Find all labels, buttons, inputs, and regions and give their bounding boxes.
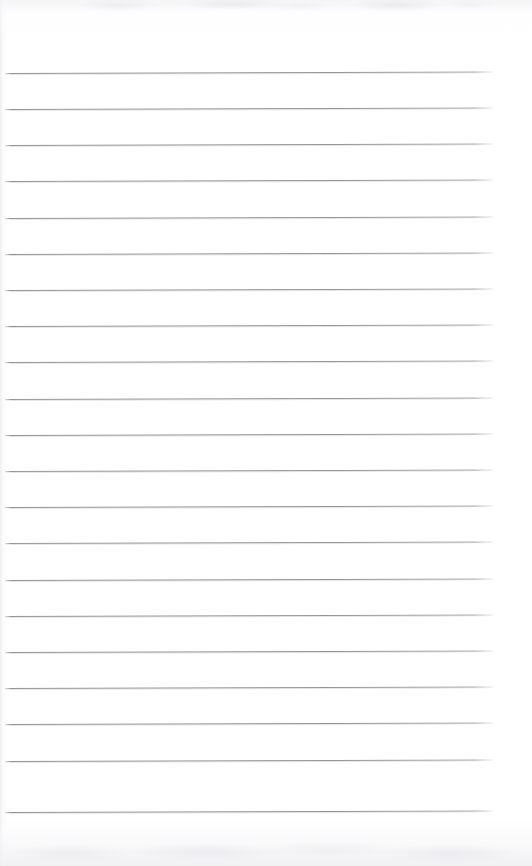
rule-line (5, 288, 493, 291)
rule-line (5, 179, 493, 182)
rule-line (5, 143, 493, 146)
rule-line (5, 71, 493, 74)
rule-line (5, 505, 493, 508)
rule-line (5, 810, 493, 813)
rule-line (5, 397, 493, 400)
scanned-page (0, 0, 532, 866)
rule-line (5, 541, 493, 544)
rule-line (5, 360, 493, 363)
rule-line (5, 686, 493, 689)
rule-line (5, 759, 493, 762)
rule-line (5, 216, 493, 219)
rule-line (5, 469, 493, 472)
rule-line (5, 433, 493, 436)
rule-line (5, 578, 493, 581)
rule-line (5, 650, 493, 653)
rule-line (5, 324, 493, 327)
rule-line (5, 614, 493, 617)
ruled-lines-layer (0, 0, 532, 866)
rule-line (5, 722, 493, 725)
rule-line (5, 107, 493, 110)
rule-line (5, 252, 493, 255)
